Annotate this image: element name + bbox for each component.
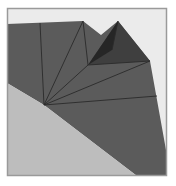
mesh-diagram — [0, 0, 176, 186]
